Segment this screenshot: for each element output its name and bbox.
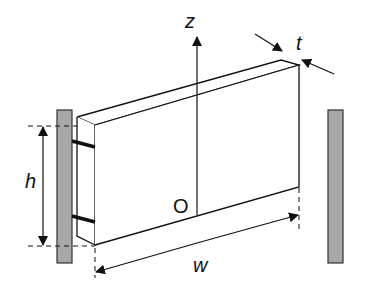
diagram-canvas: z O h w t	[0, 0, 367, 293]
z-axis-label: z	[184, 10, 195, 32]
width-label: w	[193, 254, 209, 276]
plate	[77, 60, 299, 245]
t-arrow-in-left-icon	[255, 34, 282, 51]
left-wall	[57, 110, 72, 263]
t-arrow-in-right-icon	[302, 60, 334, 74]
w-dimension-arrow-left-icon	[96, 243, 197, 272]
height-label: h	[25, 170, 36, 192]
plate-between-walls-diagram: z O h w t	[0, 0, 367, 293]
w-dimension-arrow-right-icon	[197, 215, 298, 243]
plate-left-face	[77, 117, 95, 245]
thickness-label: t	[296, 32, 303, 54]
origin-label: O	[173, 195, 189, 217]
right-wall	[328, 110, 343, 263]
